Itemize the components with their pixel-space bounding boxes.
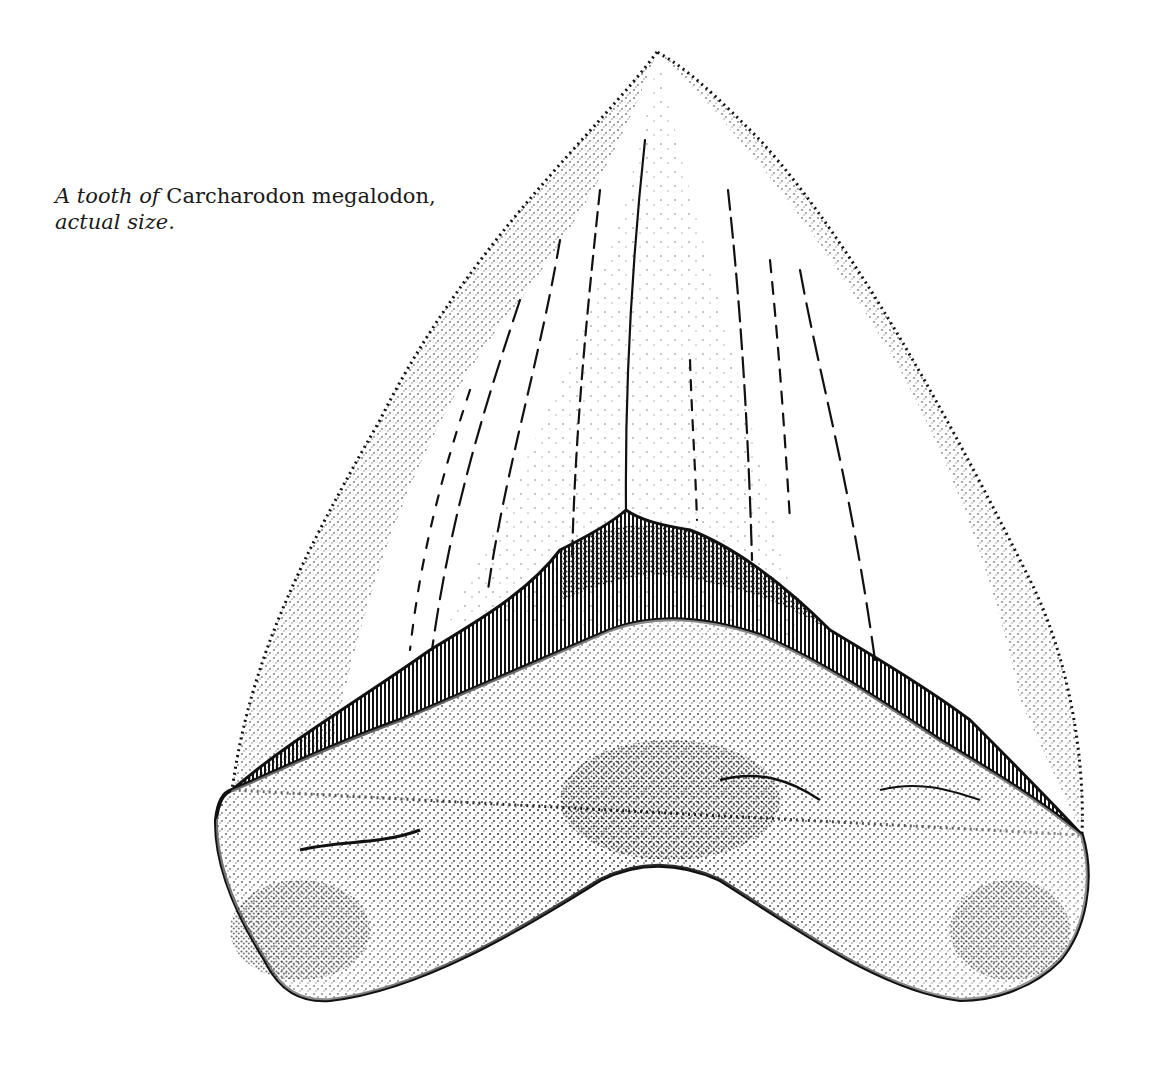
tooth-illustration: [0, 0, 1152, 1076]
